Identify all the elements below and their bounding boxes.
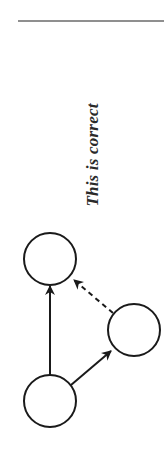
- node-top: [24, 233, 76, 285]
- node-bottom: [24, 375, 76, 427]
- node-right: [108, 304, 160, 356]
- edge-bottom-to-right: [71, 351, 111, 385]
- edge-right-to-top-dashed: [74, 280, 113, 313]
- graph-diagram: [0, 0, 164, 459]
